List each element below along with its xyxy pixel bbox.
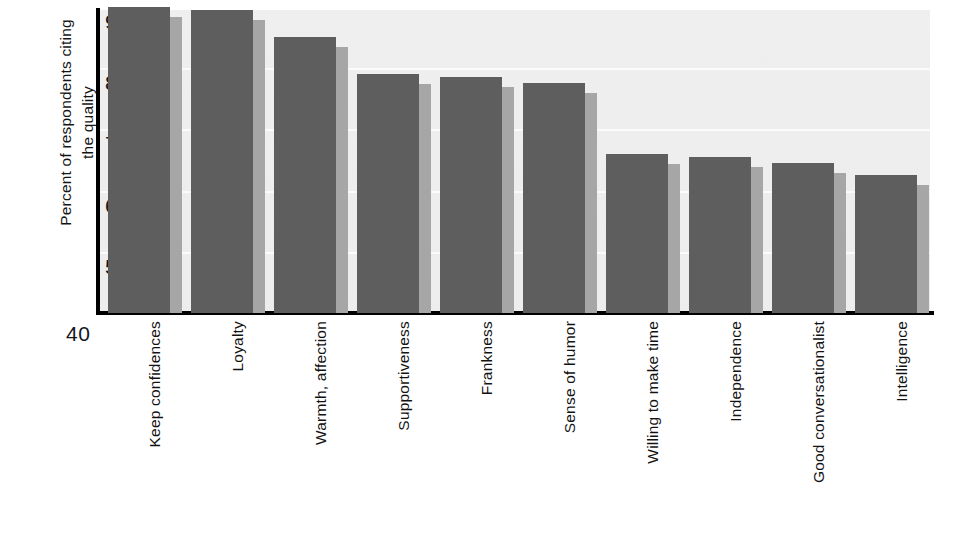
- x-axis-category-label: Good conversationalist: [810, 321, 828, 483]
- y-axis-line: [96, 8, 100, 315]
- bar: [357, 74, 431, 313]
- bar-shadow: [170, 17, 182, 313]
- bar-shadow: [502, 87, 514, 313]
- bar: [772, 163, 846, 313]
- x-axis-category-label: Keep confidences: [146, 321, 164, 447]
- bar-shadow: [668, 164, 680, 313]
- bar-shadow: [834, 173, 846, 313]
- bar-body: [191, 10, 253, 313]
- bar-shadow: [917, 185, 929, 313]
- bar-shadow: [336, 47, 348, 313]
- bar-shadow: [253, 20, 265, 313]
- y-axis-title: Percent of respondents citing the qualit…: [55, 0, 100, 257]
- bar: [191, 10, 265, 313]
- bar-body: [274, 37, 336, 313]
- bar-body: [855, 175, 917, 313]
- x-axis-category-label: Frankness: [478, 321, 496, 395]
- x-axis-category-label: Warmth, affection: [312, 321, 330, 445]
- x-axis-category-label: Loyalty: [229, 321, 247, 372]
- bar-chart: Percent of respondents citing the qualit…: [0, 0, 957, 537]
- x-axis-category-label: Supportiveness: [395, 321, 413, 431]
- bar: [606, 154, 680, 313]
- bar-shadow: [585, 93, 597, 313]
- x-axis-category-label: Independence: [727, 321, 745, 422]
- bar: [440, 77, 514, 313]
- bar: [108, 7, 182, 313]
- bar-body: [523, 83, 585, 313]
- bar-body: [108, 7, 170, 313]
- x-axis-category-label: Willing to make time: [644, 321, 662, 464]
- x-axis-category-label: Intelligence: [893, 321, 911, 402]
- bar-body: [689, 157, 751, 313]
- bar-body: [772, 163, 834, 313]
- bar: [855, 175, 929, 313]
- bar-body: [357, 74, 419, 313]
- bar-shadow: [419, 84, 431, 313]
- bar: [523, 83, 597, 313]
- bar-body: [606, 154, 668, 313]
- bar: [274, 37, 348, 313]
- bar: [689, 157, 763, 313]
- x-axis-category-label: Sense of humor: [561, 321, 579, 433]
- bar-body: [440, 77, 502, 313]
- y-axis-origin-label: 40: [66, 322, 90, 346]
- bar-shadow: [751, 167, 763, 313]
